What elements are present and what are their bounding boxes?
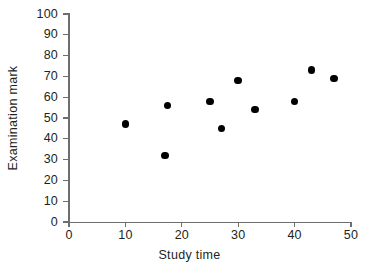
data-point [161,152,169,160]
x-tick-label: 50 [331,229,371,242]
y-tick-mark [63,138,68,139]
y-tick-label: 10 [18,195,58,208]
x-tick-mark [68,222,69,227]
y-tick-mark [63,159,68,160]
plot-area [69,14,351,222]
y-tick-label: 0 [18,216,58,229]
data-point [218,125,226,133]
data-point [330,75,338,83]
x-tick-mark [181,222,182,227]
x-tick-label: 30 [218,229,258,242]
y-tick-label: 20 [18,174,58,187]
x-tick-mark [294,222,295,227]
y-tick-label: 30 [18,153,58,166]
data-point [122,120,130,128]
x-axis-line [68,222,351,224]
y-axis-line [68,13,70,223]
y-tick-label: 70 [18,70,58,83]
y-tick-label: 50 [18,112,58,125]
y-tick-label: 40 [18,132,58,145]
y-tick-mark [63,13,68,14]
x-axis-title: Study time [0,248,379,262]
x-tick-label: 40 [275,229,315,242]
data-point [308,66,316,74]
y-tick-mark [63,221,68,222]
y-tick-label: 90 [18,28,58,41]
x-tick-mark [125,222,126,227]
x-tick-mark [350,222,351,227]
y-tick-mark [63,34,68,35]
data-point [206,98,214,106]
y-axis-title-wrapper: Examination mark [2,0,24,236]
y-tick-mark [63,97,68,98]
y-tick-mark [63,55,68,56]
x-tick-label: 20 [162,229,202,242]
y-tick-label: 60 [18,91,58,104]
y-tick-mark [63,201,68,202]
y-tick-label: 80 [18,49,58,62]
y-axis-title: Examination mark [6,66,20,171]
x-tick-mark [238,222,239,227]
y-tick-mark [63,117,68,118]
y-tick-label: 100 [18,8,58,21]
y-tick-mark [63,76,68,77]
y-tick-mark [63,180,68,181]
scatter-plot-figure: 0102030405060708090100 01020304050 Exami… [0,0,379,279]
x-tick-label: 0 [49,229,89,242]
x-tick-label: 10 [105,229,145,242]
